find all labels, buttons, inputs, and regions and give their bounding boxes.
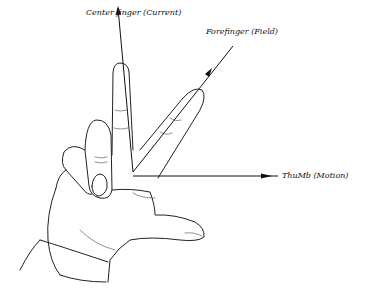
thumb-label: ThuMb (Motion) (282, 171, 349, 180)
diagram-canvas: Center finger (Current) Forefinger (Fiel… (0, 0, 365, 289)
forefinger-label: Forefinger (Field) (206, 27, 278, 36)
center-finger-label: Center finger (Current) (86, 8, 181, 17)
field-arrowhead (205, 68, 212, 77)
motion-arrowhead (261, 174, 272, 179)
hand-drawing (20, 63, 204, 282)
current-axis-line (118, 8, 133, 172)
field-axis-line (133, 46, 233, 172)
palm-outline (48, 188, 60, 275)
hand-illustration (0, 0, 365, 289)
sleeve-cuff (20, 240, 108, 282)
thumb-outline (108, 189, 204, 282)
ring-finger-outline (85, 120, 112, 198)
forefinger-outline (140, 89, 204, 178)
